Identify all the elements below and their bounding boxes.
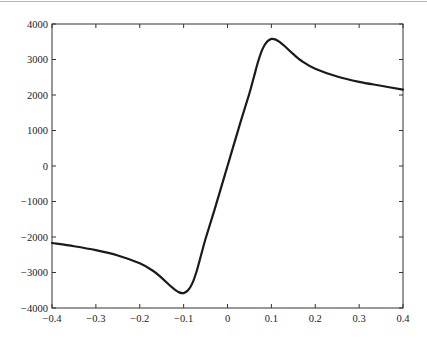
y-tick-label: −4000 xyxy=(21,303,48,314)
y-tick-label: 3000 xyxy=(27,54,48,65)
y-axis-tick-labels: 40003000200010000−1000−2000−3000−4000 xyxy=(21,19,48,314)
x-tick-label: −0.2 xyxy=(130,313,149,324)
line-chart: −0.4−0.3−0.2−0.100.10.20.30.4 4000300020… xyxy=(0,0,427,343)
y-tick-label: 1000 xyxy=(27,125,48,136)
x-tick-label: 0.3 xyxy=(353,313,366,324)
y-tick-label: 0 xyxy=(43,161,48,172)
x-tick-label: 0 xyxy=(225,313,230,324)
x-tick-label: 0.2 xyxy=(309,313,322,324)
y-tick-label: −3000 xyxy=(21,267,48,278)
x-tick-label: 0.1 xyxy=(265,313,278,324)
y-tick-label: −2000 xyxy=(21,232,48,243)
y-tick-label: 4000 xyxy=(27,19,48,30)
y-tick-label: 2000 xyxy=(27,90,48,101)
x-axis-tick-labels: −0.4−0.3−0.2−0.100.10.20.30.4 xyxy=(42,313,410,324)
y-tick-label: −1000 xyxy=(21,196,48,207)
x-tick-label: −0.4 xyxy=(42,313,62,324)
x-tick-label: 0.4 xyxy=(396,313,410,324)
data-curve xyxy=(52,39,403,293)
x-tick-label: −0.3 xyxy=(86,313,105,324)
x-tick-label: −0.1 xyxy=(174,313,193,324)
